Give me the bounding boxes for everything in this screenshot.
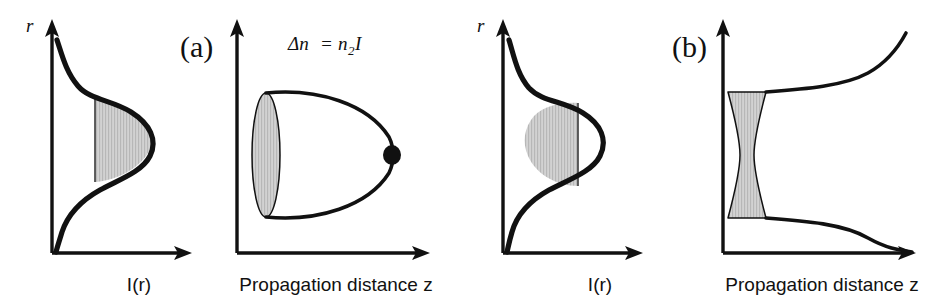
panel-a-propagation-x-axis-label: Propagation distance z xyxy=(239,274,432,295)
panel-b-label: (b) xyxy=(672,30,707,64)
equation-equals: = xyxy=(320,33,333,54)
panel-b-profile-y-axis-label: r xyxy=(477,15,485,36)
equation-delta-n: Δn xyxy=(287,33,309,54)
panel-a-profile-x-axis-label: I(r) xyxy=(127,274,151,295)
panel-b-propagation-x-axis-label: Propagation distance z xyxy=(725,274,918,295)
panel-a-profile-y-axis-label: r xyxy=(26,15,34,36)
equation-n: n xyxy=(338,33,348,54)
self-focusing-figure: r I(r) (a) Δn = n 2 xyxy=(0,0,932,305)
figure-root: r I(r) (a) Δn = n 2 xyxy=(0,0,932,305)
panel-b-profile-x-axis-label: I(r) xyxy=(588,274,612,295)
panel-a-label: (a) xyxy=(180,30,213,64)
panel-a-input-beam-ellipse xyxy=(252,93,280,217)
panel-a-focal-point-dot xyxy=(383,145,401,165)
equation-n-subscript: 2 xyxy=(348,43,355,58)
